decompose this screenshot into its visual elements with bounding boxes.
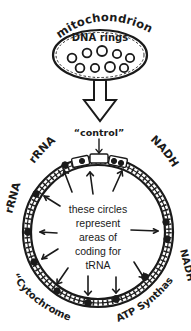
diagram-canvas: mitochondrion DNA rings: [0, 0, 191, 331]
trna-dot: [164, 236, 170, 242]
dna-ring: [120, 64, 128, 72]
rrna-left-label: rRNA: [2, 180, 23, 214]
dna-ring: [91, 64, 99, 72]
center-note-line-2: represent: [76, 217, 120, 229]
nadh-upper-right-label: NADH: [148, 133, 181, 170]
center-note-line-4: coding for: [75, 245, 122, 257]
trna-dot: [118, 160, 123, 165]
callout-arrow: [134, 262, 144, 278]
mitochondrion-group: mitochondrion DNA rings: [53, 10, 155, 80]
control-segment: [90, 154, 108, 163]
trna-dot: [31, 259, 37, 265]
dna-ring: [76, 64, 85, 73]
trna-dot: [25, 229, 32, 236]
center-note-line-1: these circles: [69, 203, 127, 215]
control-pointer-arrow: [96, 139, 102, 153]
trna-dot: [54, 288, 60, 294]
dna-ring: [105, 62, 115, 72]
rrna-upper-left-label: rRNA: [26, 133, 58, 165]
center-note-line-5: tRNA: [85, 259, 110, 271]
dna-ring: [83, 49, 92, 58]
trna-dot: [111, 158, 116, 163]
dna-ring: [68, 54, 77, 63]
callout-arrow: [131, 230, 158, 231]
trna-dot: [79, 158, 84, 163]
center-note-line-3: areas of: [79, 231, 117, 243]
trna-dot: [85, 300, 92, 307]
mitochondrial-dna-diagram: mitochondrion DNA rings: [0, 0, 191, 331]
dna-rings-label: DNA rings: [72, 32, 129, 43]
control-label: “control”: [74, 127, 124, 138]
dna-ring: [97, 46, 107, 56]
down-arrow: [84, 80, 116, 121]
trna-dot: [163, 219, 169, 225]
down-arrow-shape: [84, 80, 116, 121]
nadh-right-label: NADH: [178, 248, 191, 282]
dna-ring: [113, 50, 121, 58]
callout-arrow: [57, 268, 68, 284]
trna-dot: [62, 162, 68, 168]
trna-dot: [113, 296, 120, 303]
dna-ring: [126, 54, 134, 62]
trna-dot: [33, 191, 39, 197]
callout-arrow: [64, 171, 72, 192]
center-note: these circles represent areas of coding …: [69, 203, 127, 271]
